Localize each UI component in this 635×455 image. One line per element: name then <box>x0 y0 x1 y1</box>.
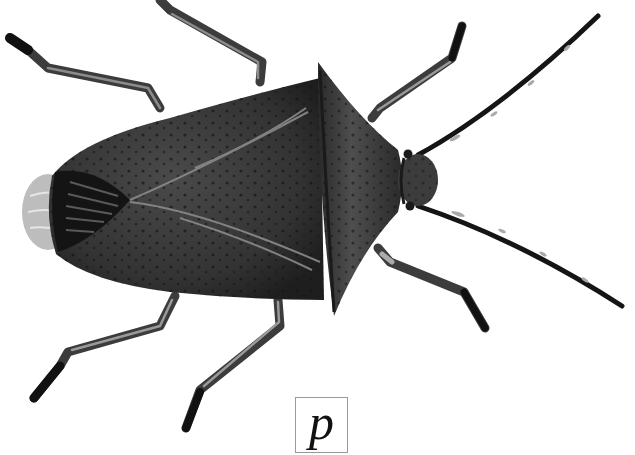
figure-label: p <box>309 397 334 447</box>
leg-lower-right <box>378 248 485 328</box>
eye-lower <box>406 202 415 211</box>
figure-label-box: p <box>295 397 348 453</box>
antenna-upper <box>418 16 598 155</box>
eye-upper <box>404 150 413 159</box>
leg-lower-left <box>34 296 175 398</box>
leg-upper-middle <box>160 0 262 82</box>
leg-lower-middle <box>186 300 280 428</box>
shield-bug-illustration <box>0 0 635 455</box>
antenna-lower <box>418 206 622 306</box>
